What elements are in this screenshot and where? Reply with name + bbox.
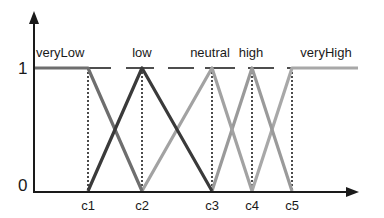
x-axis-arrow-icon [346, 187, 359, 197]
x-tick-c4: c4 [245, 198, 259, 213]
membership-diagram: 1 0 c1 c2 c3 c4 c5 veryLow low neutral h… [0, 0, 384, 218]
dotted-guides [88, 68, 292, 191]
set-veryHigh-line [252, 68, 358, 191]
x-tick-c5: c5 [285, 198, 299, 213]
x-tick-c1: c1 [81, 198, 95, 213]
x-tick-c3: c3 [205, 198, 219, 213]
set-neutral-line [142, 68, 252, 191]
label-neutral: neutral [190, 45, 230, 60]
y-tick-1: 1 [18, 59, 27, 78]
y-tick-0: 0 [18, 176, 27, 195]
label-veryLow: veryLow [36, 45, 85, 60]
label-high: high [239, 45, 264, 60]
set-low-line [88, 68, 212, 191]
label-veryHigh: veryHigh [300, 45, 351, 60]
x-tick-c2: c2 [135, 198, 149, 213]
y-axis-arrow-icon [29, 11, 39, 24]
label-low: low [132, 45, 152, 60]
